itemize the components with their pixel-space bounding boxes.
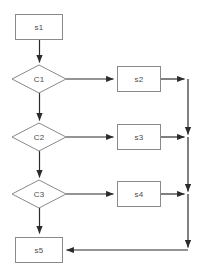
node-s4-label: s4 bbox=[135, 190, 144, 199]
flowchart-canvas: s1 C1 s2 C2 s3 C3 s4 bbox=[0, 0, 202, 270]
node-s1-label: s1 bbox=[35, 23, 44, 32]
flowchart-svg: s1 C1 s2 C2 s3 C3 s4 bbox=[0, 0, 202, 270]
node-s5[interactable]: s5 bbox=[16, 238, 63, 263]
connector-layer bbox=[40, 40, 189, 250]
node-s2-label: s2 bbox=[135, 75, 144, 84]
node-c2-label: C2 bbox=[34, 133, 45, 142]
node-c1-label: C1 bbox=[34, 75, 45, 84]
node-s1[interactable]: s1 bbox=[16, 15, 63, 40]
node-s2[interactable]: s2 bbox=[118, 67, 161, 92]
node-c1[interactable]: C1 bbox=[12, 65, 66, 93]
node-s3-label: s3 bbox=[135, 133, 144, 142]
node-c3-label: C3 bbox=[34, 190, 45, 199]
node-c3[interactable]: C3 bbox=[12, 180, 66, 208]
node-s4[interactable]: s4 bbox=[118, 182, 161, 207]
node-s5-label: s5 bbox=[35, 246, 44, 255]
node-c2[interactable]: C2 bbox=[12, 123, 66, 151]
node-s3[interactable]: s3 bbox=[118, 125, 161, 150]
